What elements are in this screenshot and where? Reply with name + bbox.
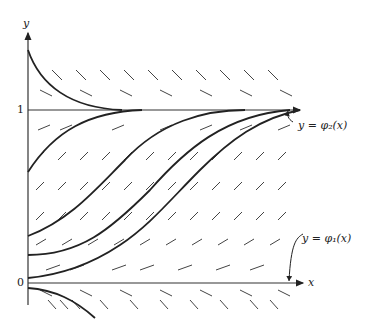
- y-tick-1: 1: [17, 104, 24, 115]
- solution-curve-4: [28, 110, 300, 278]
- phi1-label: y = φ₁(x): [302, 233, 351, 244]
- phi2-label: y = φ₂(x): [298, 120, 347, 131]
- solution-curves: [28, 50, 300, 318]
- solution-curve-1: [28, 110, 142, 172]
- direction-field-diagram: [0, 0, 365, 320]
- slope-field: [36, 70, 292, 309]
- phi1-pointer: [289, 234, 303, 281]
- solution-curve-above-1: [28, 50, 122, 110]
- y-axis-label: y: [23, 18, 29, 29]
- x-axis-label: x: [308, 277, 314, 288]
- y-tick-0: 0: [17, 277, 24, 288]
